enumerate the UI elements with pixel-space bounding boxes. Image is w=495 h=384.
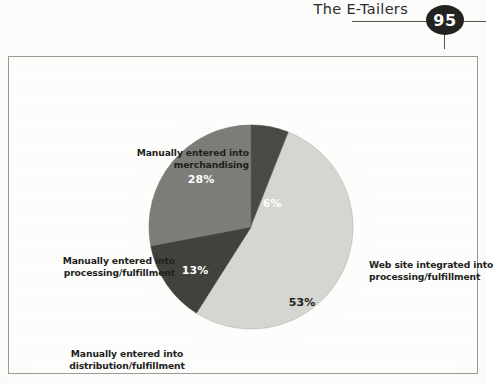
pie-chart: 6% 53% 13% 28% Manually entered into mer… <box>9 57 477 373</box>
page-title: The E-Tailers <box>314 1 408 17</box>
pie-chart-svg: 6% 53% 13% 28% <box>9 57 477 373</box>
figure-frame: 6% 53% 13% 28% Manually entered into mer… <box>8 56 478 374</box>
callout-website: Web site integrated into processing/fulf… <box>369 259 495 283</box>
pie-value-label-distribution: 13% <box>182 264 208 277</box>
page-number-badge: 95 <box>426 5 464 35</box>
callout-distribution: Manually entered into distribution/fulfi… <box>47 348 207 372</box>
pie-value-label-processing: 28% <box>188 173 214 186</box>
page-number-tick <box>444 35 445 49</box>
callout-processing: Manually entered into processing/fulfill… <box>23 255 175 279</box>
pie-value-label-merchandising: 6% <box>263 197 282 210</box>
callout-merchandising: Manually entered into merchandising <box>105 147 249 171</box>
page-header: The E-Tailers 95 <box>0 0 486 46</box>
pie-value-label-website: 53% <box>289 296 315 309</box>
